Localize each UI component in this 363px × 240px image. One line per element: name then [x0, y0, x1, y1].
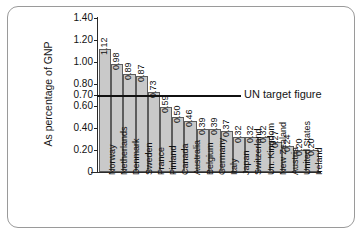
x-axis-category-label: Japan [242, 150, 251, 175]
bar-value-label: 0.39 [210, 118, 219, 136]
y-axis-tick-label: 0.20 [59, 145, 93, 155]
x-axis-category-label: Netherlands [120, 126, 129, 175]
y-axis-tick-label: 1.40 [59, 13, 93, 23]
x-axis-category-label: Un. Kingdom [267, 123, 276, 175]
bar-value-label: 0.46 [185, 110, 194, 128]
y-axis-tick-labels: 1.401.201.000.800.700.600.400.200 [59, 0, 93, 240]
y-axis-tick-label: 0.60 [59, 101, 93, 111]
x-axis-category-label: New Zealand [279, 122, 288, 175]
x-axis-category-label: Austria [291, 147, 300, 175]
x-axis-category-label: Belgium [206, 142, 215, 175]
y-axis-title: As percentage of GNP [42, 34, 54, 154]
x-axis-category-label: France [157, 147, 166, 175]
x-axis-category-label: Australia [193, 140, 202, 175]
y-axis-tick-label: 0.40 [59, 123, 93, 133]
x-axis-category-label: Italy [230, 158, 239, 175]
x-axis-category-label: Denmark [132, 138, 141, 175]
bar-value-label: 0.89 [124, 63, 133, 81]
y-axis-tick-label: 1.00 [59, 57, 93, 67]
un-target-line [97, 95, 241, 97]
y-axis-tick-label: 0.70 [59, 90, 93, 100]
bar-value-label: 0.50 [173, 105, 182, 123]
x-axis-category-label: Germany [218, 138, 227, 175]
x-axis-category-label: United States [303, 121, 312, 175]
bar-value-label: 0.59 [161, 96, 170, 114]
bar-value-label: 0.98 [112, 53, 121, 71]
bar-value-label: 0.87 [137, 65, 146, 83]
un-target-figure-label: UN target figure [244, 88, 322, 100]
x-axis-category-label: Switzerland [254, 128, 263, 175]
y-axis-tick-label: 0.80 [59, 79, 93, 89]
bar-value-label: 0.32 [234, 125, 243, 143]
x-axis-category-label: Norway [108, 144, 117, 175]
x-axis-category-label: Ireland [315, 147, 324, 175]
x-axis-category-label: Sweden [145, 142, 154, 175]
x-axis-category-label: Finland [169, 145, 178, 175]
y-axis-tick-label: 1.20 [59, 35, 93, 45]
bar-value-label: 0.37 [222, 120, 231, 138]
bar-chart: As percentage of GNP 1.401.201.000.800.7… [0, 0, 363, 240]
bar-value-label: 0.39 [198, 118, 207, 136]
bar-value-label: 1.12 [100, 37, 109, 55]
y-axis-tick-label: 0 [59, 167, 93, 177]
x-axis-category-label: Canada [181, 143, 190, 175]
